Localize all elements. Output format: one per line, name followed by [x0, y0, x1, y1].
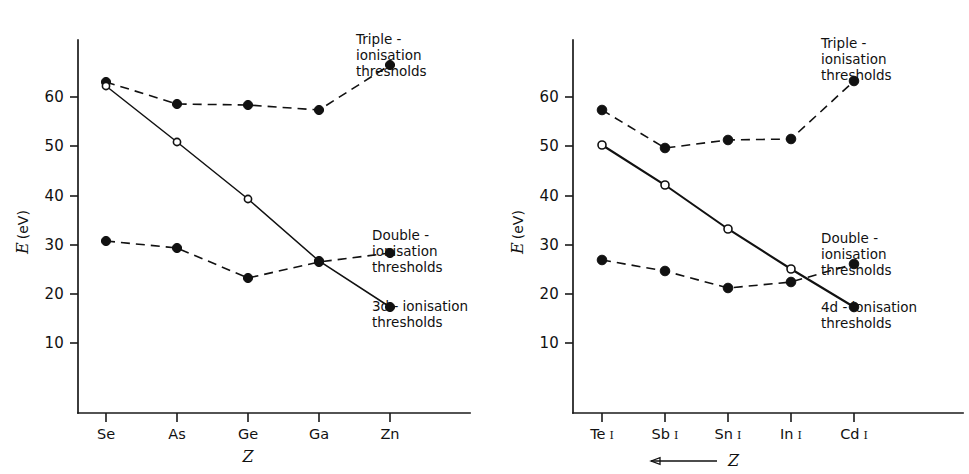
svg-text:E(eV): E(eV) — [13, 210, 32, 255]
right-xtick-cd: CdI — [840, 426, 868, 442]
right-x-tick-labels: TeI SbI SnI InI CdI — [589, 426, 868, 442]
left-chart-svg: 60 50 40 30 20 10 E(eV) — [0, 0, 484, 474]
left-annot-triple-line2: ionisation — [356, 47, 421, 63]
left-annot-3d-line2: thresholds — [372, 314, 443, 330]
left-xtick-ga: Ga — [309, 426, 329, 442]
right-series-triple-markers — [597, 76, 859, 153]
right-y-tick-labels: 60 50 40 30 20 10 — [540, 88, 560, 352]
left-ytick-10: 10 — [45, 334, 65, 352]
left-ytick-50: 50 — [45, 137, 65, 155]
right-annot-triple-line1: Triple - — [820, 35, 866, 51]
left-y-axis-unit: (eV) — [15, 210, 31, 239]
right-annot-double-line2: ionisation — [821, 246, 886, 262]
right-chart-svg: 60 50 40 30 20 10 E(eV) — [485, 0, 969, 474]
chart-panel-left: 60 50 40 30 20 10 E(eV) — [0, 0, 484, 474]
right-ytick-10: 10 — [540, 334, 560, 352]
left-ytick-40: 40 — [45, 187, 65, 205]
right-xtick-sn: SnI — [715, 426, 742, 442]
right-y-axis-title: E(eV) — [508, 210, 527, 255]
left-x-tick-labels: Se As Ge Ga Zn — [97, 426, 400, 442]
right-ytick-20: 20 — [540, 285, 560, 303]
right-annot-triple-line3: thresholds — [821, 67, 892, 83]
left-annot-3d-line1: 3d - ionisation — [372, 298, 468, 314]
left-ytick-30: 30 — [45, 236, 65, 254]
left-series-triple-markers — [101, 60, 394, 114]
left-xtick-se: Se — [97, 426, 115, 442]
right-annot-4d-line2: thresholds — [821, 315, 892, 331]
left-ytick-60: 60 — [45, 88, 65, 106]
left-annotation-3d: 3d - ionisation thresholds — [372, 298, 468, 330]
right-x-axis-title: Z — [727, 451, 740, 470]
left-ytick-20: 20 — [45, 285, 65, 303]
right-ytick-50: 50 — [540, 137, 560, 155]
left-annot-double-line2: ionisation — [372, 243, 437, 259]
svg-text:E(eV): E(eV) — [508, 210, 527, 255]
left-annot-double-line3: thresholds — [372, 259, 443, 275]
right-annotation-triple: Triple - ionisation thresholds — [820, 35, 892, 83]
left-y-axis-symbol: E — [13, 242, 32, 255]
left-annot-triple-line3: thresholds — [356, 63, 427, 79]
left-y-ticks — [70, 97, 78, 343]
left-annotation-triple: Triple - ionisation thresholds — [355, 31, 427, 79]
left-series-double-line — [106, 241, 390, 278]
right-ytick-60: 60 — [540, 88, 560, 106]
left-x-axis-title: Z — [241, 447, 254, 466]
left-annotation-double: Double - ionisation thresholds — [372, 227, 443, 275]
left-series-double-markers — [101, 236, 394, 282]
right-ytick-30: 30 — [540, 236, 560, 254]
right-xtick-te: TeI — [589, 426, 614, 442]
right-annot-double-line3: thresholds — [821, 262, 892, 278]
right-ytick-40: 40 — [540, 187, 560, 205]
right-xtick-sb: SbI — [652, 426, 679, 442]
left-x-ticks — [106, 413, 390, 422]
right-annot-double-line1: Double - — [821, 230, 878, 246]
right-y-ticks — [565, 97, 573, 343]
right-y-axis-unit: (eV) — [510, 210, 526, 239]
right-annot-triple-line2: ionisation — [821, 51, 886, 67]
left-annot-double-line1: Double - — [372, 227, 429, 243]
right-xtick-in: InI — [780, 426, 802, 442]
left-xtick-as: As — [168, 426, 185, 442]
right-annot-4d-line1: 4d - ionisation — [821, 299, 917, 315]
figure-canvas: 60 50 40 30 20 10 E(eV) — [0, 0, 969, 474]
left-y-axis-title: E(eV) — [13, 210, 32, 255]
left-annot-triple-line1: Triple - — [355, 31, 401, 47]
chart-panel-right: 60 50 40 30 20 10 E(eV) — [485, 0, 969, 474]
right-x-ticks — [602, 413, 854, 422]
right-x-axis-title-group: Z — [651, 451, 740, 470]
right-y-axis-symbol: E — [508, 242, 527, 255]
right-annotation-4d: 4d - ionisation thresholds — [821, 299, 917, 331]
left-xtick-ge: Ge — [238, 426, 258, 442]
left-y-tick-labels: 60 50 40 30 20 10 — [45, 88, 65, 352]
left-xtick-zn: Zn — [380, 426, 399, 442]
right-annotation-double: Double - ionisation thresholds — [821, 230, 892, 278]
